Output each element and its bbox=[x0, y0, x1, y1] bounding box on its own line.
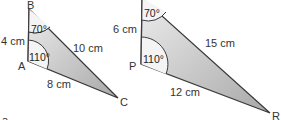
angle-label-p: 110° bbox=[143, 53, 164, 65]
side-label-qr: 15 cm bbox=[205, 37, 235, 49]
side-label-ba: 4 cm bbox=[1, 35, 25, 47]
vertex-label-a: A bbox=[18, 60, 26, 72]
similar-triangles-diagram: B A C 4 cm 10 cm 8 cm 70° 110° P R 6 cm … bbox=[0, 0, 281, 120]
footer-fragment: a bbox=[2, 114, 9, 120]
side-label-bc: 10 cm bbox=[73, 42, 103, 54]
side-label-qp: 6 cm bbox=[113, 23, 137, 35]
vertex-label-p: P bbox=[129, 60, 136, 72]
side-label-ac: 8 cm bbox=[47, 78, 71, 90]
angle-label-q: 70° bbox=[144, 7, 160, 19]
vertex-label-r: R bbox=[272, 110, 280, 120]
angle-label-a: 110° bbox=[29, 51, 50, 63]
side-label-pr: 12 cm bbox=[170, 86, 200, 98]
angle-label-b: 70° bbox=[31, 23, 47, 35]
vertex-label-c: C bbox=[120, 96, 128, 108]
vertex-label-b: B bbox=[27, 0, 34, 11]
